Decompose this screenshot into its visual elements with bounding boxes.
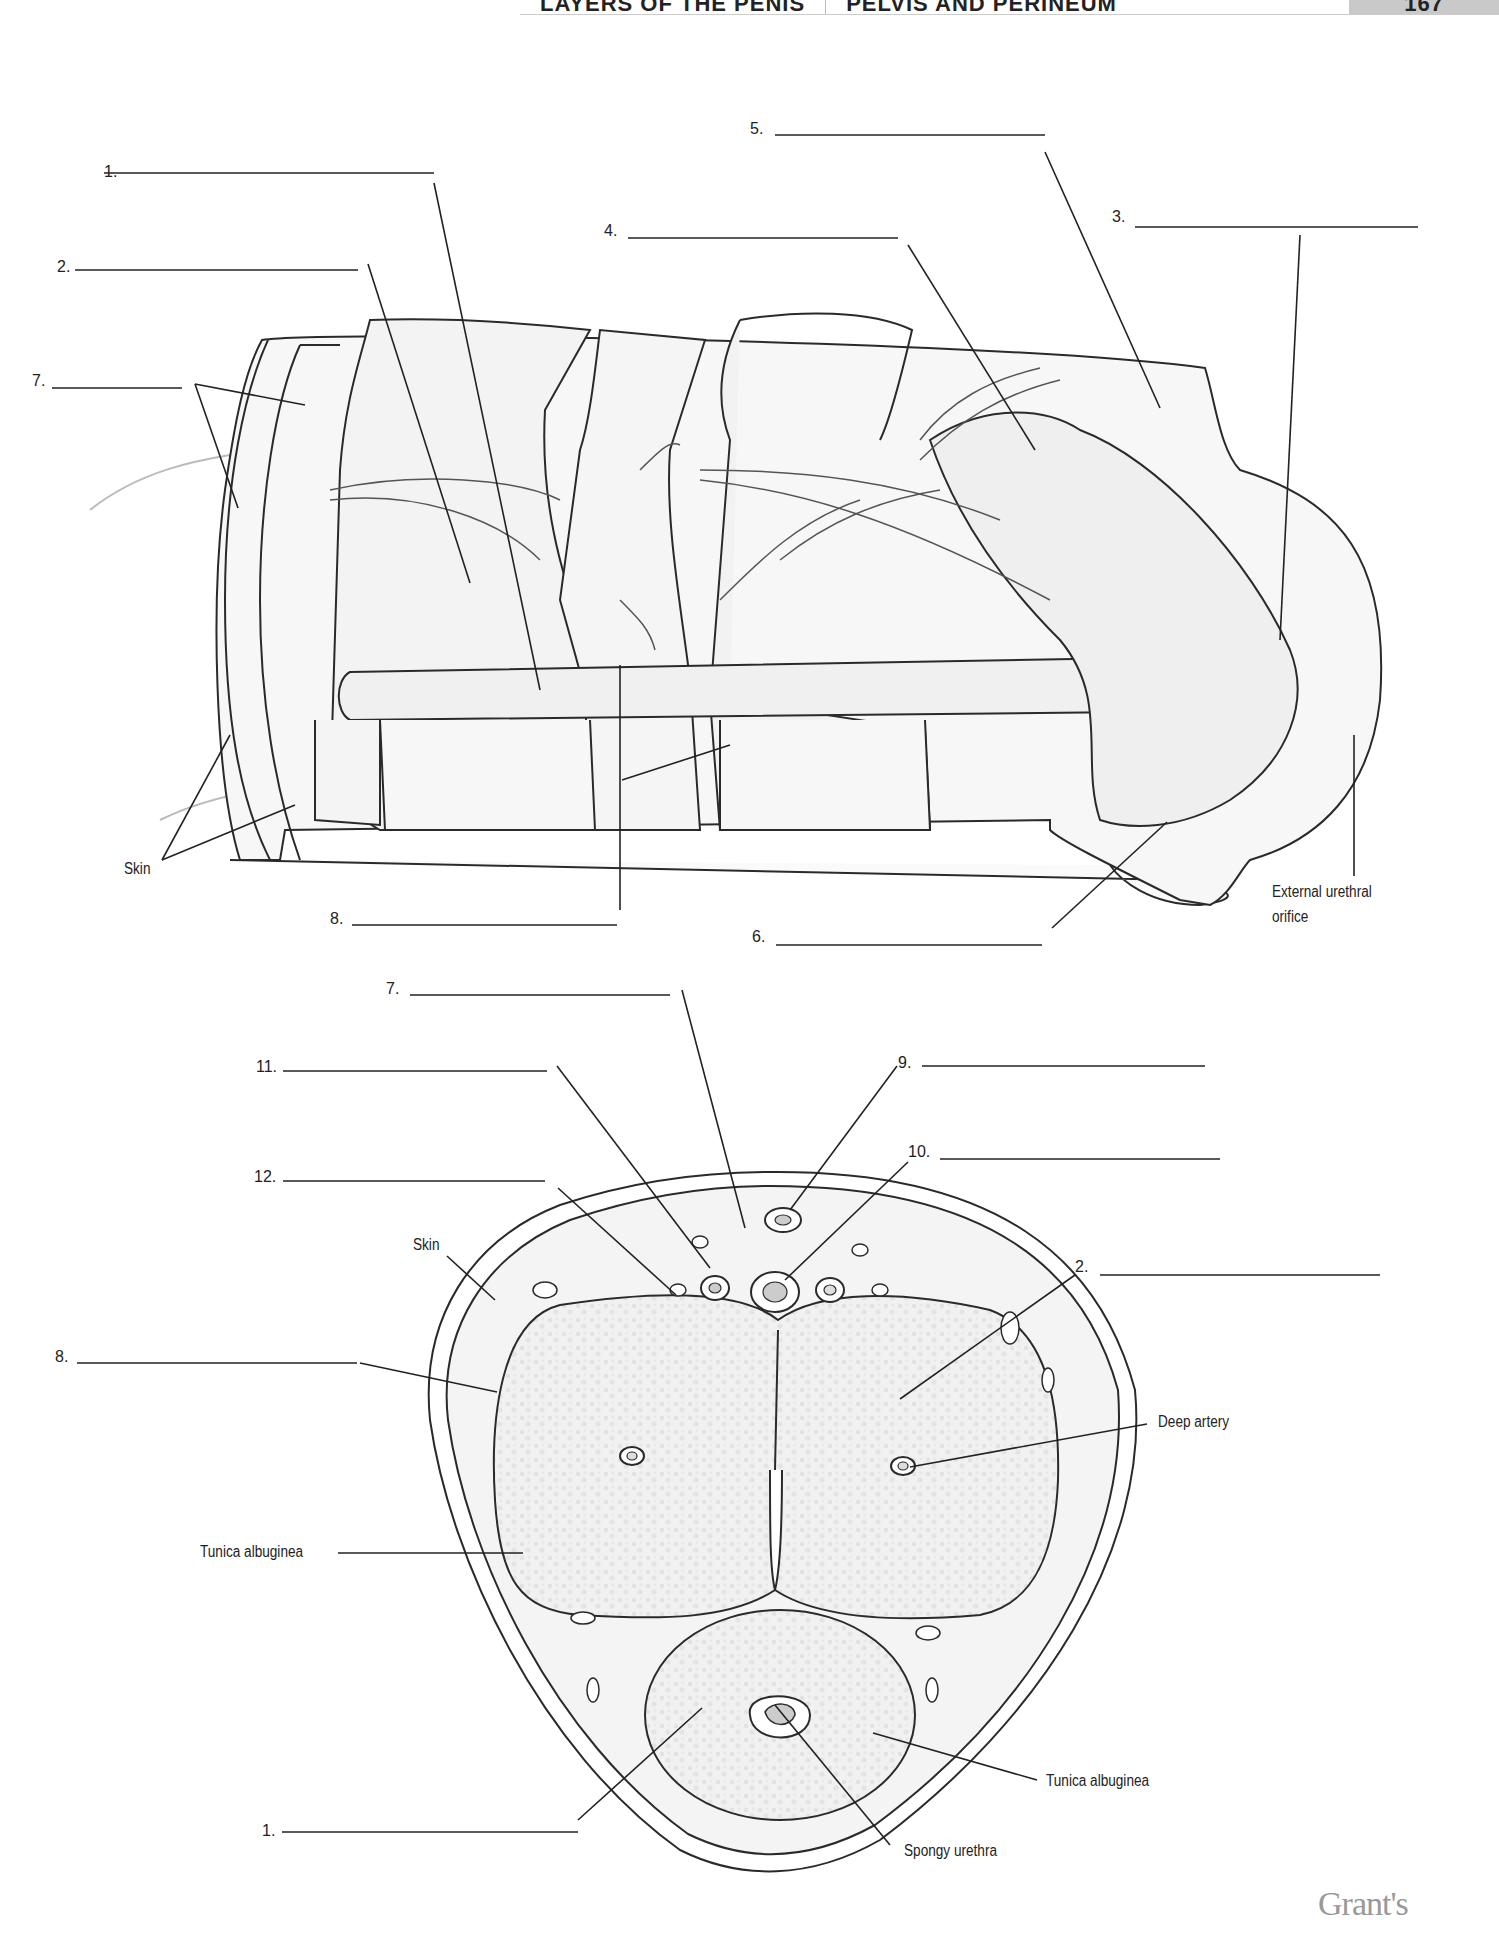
bottom-blank-2-number: 2. <box>1075 1258 1088 1276</box>
spongy-urethra-label: Spongy urethra <box>904 1842 997 1860</box>
bottom-blank-1-number: 1. <box>262 1822 275 1840</box>
bottom-blank-8-number: 8. <box>55 1348 68 1366</box>
bottom-blank-12-number: 12. <box>254 1168 276 1186</box>
top-skin-label: Skin <box>124 860 150 878</box>
top-blank-4-number: 4. <box>604 222 617 240</box>
top-blank-1-number: 1. <box>104 163 117 181</box>
top-blank-8-number: 8. <box>330 910 343 928</box>
external-urethral-orifice-label-line1: External urethral <box>1272 883 1372 901</box>
anatomy-illustration <box>0 0 1499 1958</box>
tunica-albuginea-right-label: Tunica albuginea <box>1046 1772 1149 1790</box>
top-blank-2-number: 2. <box>57 258 70 276</box>
deep-artery-label: Deep artery <box>1158 1413 1229 1431</box>
bottom-skin-label: Skin <box>413 1236 439 1254</box>
bottom-blank-7-number: 7. <box>386 980 399 998</box>
cross-section-figure <box>429 1172 1137 1871</box>
top-blank-6-number: 6. <box>752 928 765 946</box>
bottom-blank-10-number: 10. <box>908 1143 930 1161</box>
tunica-albuginea-left-label: Tunica albuginea <box>200 1543 303 1561</box>
top-blank-5-number: 5. <box>750 120 763 138</box>
top-blank-3-number: 3. <box>1112 208 1125 226</box>
bottom-blank-11-number: 11. <box>256 1058 277 1076</box>
bottom-blank-9-number: 9. <box>898 1054 911 1072</box>
external-urethral-orifice-label-line2: orifice <box>1272 908 1308 926</box>
longitudinal-figure <box>90 313 1381 905</box>
grants-logo: Grant's <box>1318 1885 1408 1923</box>
top-blank-7-number: 7. <box>32 372 45 390</box>
